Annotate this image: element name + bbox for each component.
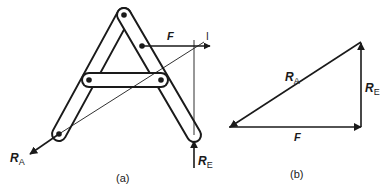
pin-apex [121, 12, 127, 18]
caption-a: (a) [116, 172, 129, 184]
caption-b: (b) [290, 168, 303, 180]
reaction-ra-arrow [30, 134, 59, 154]
label-b-ra: RA [285, 70, 300, 86]
pin-crossbar-left [86, 77, 92, 83]
diagram-canvas: F I RA RE (a) RA RE F (b) [0, 0, 391, 194]
pin-crossbar-right [158, 77, 164, 83]
label-b-force-f: F [294, 131, 301, 143]
figure-b: RA RE F (b) [229, 42, 380, 180]
label-intersection: I [206, 31, 209, 42]
figure-a: F I RA RE (a) [10, 12, 213, 184]
label-b-re: RE [365, 81, 380, 97]
label-ra: RA [10, 151, 25, 167]
label-re: RE [198, 154, 213, 170]
label-force-f: F [167, 30, 174, 42]
